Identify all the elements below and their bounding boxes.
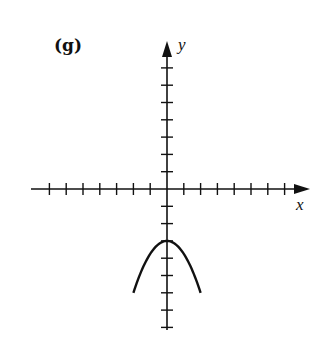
- x-axis-arrow-icon: [294, 184, 310, 194]
- plot-area: [0, 0, 314, 346]
- y-axis-arrow-icon: [162, 41, 172, 57]
- graph-figure: (g) y x: [0, 0, 314, 346]
